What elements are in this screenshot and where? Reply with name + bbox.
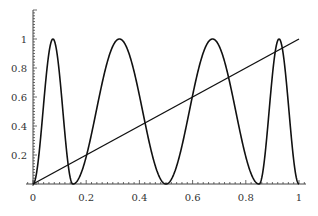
x-tick-label: 0.4 — [131, 192, 147, 203]
y-tick-label: 0.4 — [11, 121, 27, 132]
x-tick-label: 0.6 — [185, 192, 201, 203]
x-tick-label: 0 — [30, 192, 36, 203]
x-tick-label: 1 — [296, 192, 302, 203]
y-tick-label: 0.2 — [11, 150, 27, 161]
tick-labels: 00.20.40.60.810.20.40.60.81 — [11, 34, 302, 204]
y-tick-label: 0.8 — [11, 63, 27, 74]
chart: 00.20.40.60.810.20.40.60.81 — [0, 0, 318, 216]
line-y-equals-x — [33, 39, 299, 184]
y-tick-label: 1 — [21, 34, 27, 45]
x-tick-label: 0.8 — [238, 192, 254, 203]
y-tick-label: 0.6 — [11, 92, 27, 103]
x-tick-label: 0.2 — [78, 192, 94, 203]
